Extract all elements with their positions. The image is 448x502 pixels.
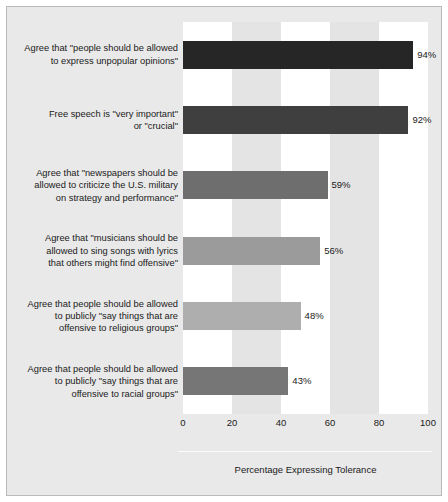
x-tick-label: 80 bbox=[374, 417, 385, 428]
chart-body: 94%92%59%56%48%43% Agree that "people sh… bbox=[0, 0, 448, 502]
bar-value-label: 94% bbox=[417, 41, 436, 69]
x-tick-label: 0 bbox=[180, 417, 185, 428]
x-tick-label: 20 bbox=[227, 417, 238, 428]
bar-value-label: 43% bbox=[292, 367, 311, 395]
bar-value-label: 92% bbox=[412, 106, 431, 134]
category-label: Agree that "musicians should be allowed … bbox=[12, 232, 178, 269]
category-label: Agree that "people should be allowed to … bbox=[12, 42, 178, 67]
x-axis-ticks: 020406080100 bbox=[183, 414, 428, 436]
category-label: Agree that people should be allowed to p… bbox=[12, 298, 178, 335]
bar-value-label: 59% bbox=[332, 171, 351, 199]
bar-value-label: 56% bbox=[324, 237, 343, 265]
x-tick-label: 100 bbox=[420, 417, 436, 428]
value-labels-layer: 94%92%59%56%48%43% bbox=[183, 22, 448, 414]
category-labels-layer: Agree that "people should be allowed to … bbox=[12, 22, 178, 414]
x-axis-title: Percentage Expressing Tolerance bbox=[183, 464, 428, 475]
category-label: Free speech is "very important" or "cruc… bbox=[12, 108, 178, 133]
bar-value-label: 48% bbox=[305, 302, 324, 330]
category-label: Agree that people should be allowed to p… bbox=[12, 363, 178, 400]
x-tick-label: 60 bbox=[325, 417, 336, 428]
axis-separator-line bbox=[178, 451, 432, 452]
x-tick-label: 40 bbox=[276, 417, 287, 428]
category-label: Agree that "newspapers should be allowed… bbox=[12, 167, 178, 204]
chart-figure: 94%92%59%56%48%43% Agree that "people sh… bbox=[0, 0, 448, 502]
